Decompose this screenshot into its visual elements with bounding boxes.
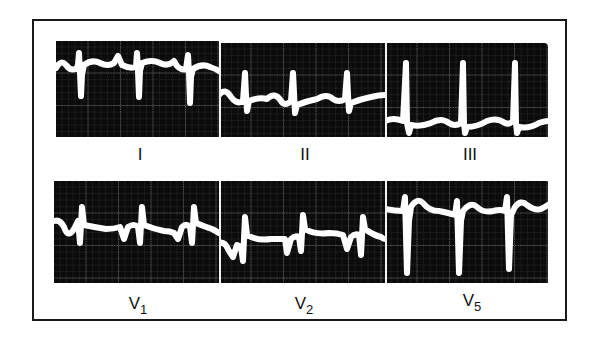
ecg-trace-lead-v2 [219, 181, 385, 283]
lead-label-text: III [463, 145, 477, 164]
lead-label-text: V [463, 291, 474, 310]
lead-label-v2: V2 [274, 295, 334, 316]
lead-label-iii: III [440, 146, 500, 163]
lead-label-subscript: 1 [140, 302, 147, 317]
ecg-panel-lead-v5 [385, 181, 548, 283]
ecg-trace-lead-v1 [54, 181, 219, 283]
lead-label-text: V [129, 294, 140, 313]
ecg-panel-lead-v2 [219, 181, 385, 283]
lead-label-i: I [110, 146, 170, 163]
ecg-panel-lead-i [56, 41, 219, 137]
ecg-panel-lead-iii [385, 43, 548, 137]
lead-label-subscript: 5 [474, 299, 481, 314]
ecg-trace-lead-v5 [385, 181, 548, 283]
ecg-trace-lead-iii [385, 43, 548, 137]
ecg-panel-lead-ii [219, 43, 385, 137]
lead-label-text: II [300, 145, 309, 164]
lead-label-ii: II [275, 146, 335, 163]
lead-label-v5: V5 [442, 292, 502, 313]
ecg-trace-lead-ii [219, 43, 385, 137]
lead-label-v1: V1 [108, 295, 168, 316]
ecg-panel-lead-v1 [54, 181, 219, 283]
lead-label-text: V [295, 294, 306, 313]
ecg-trace-lead-i [56, 41, 219, 137]
lead-label-text: I [138, 145, 143, 164]
lead-label-subscript: 2 [306, 302, 313, 317]
